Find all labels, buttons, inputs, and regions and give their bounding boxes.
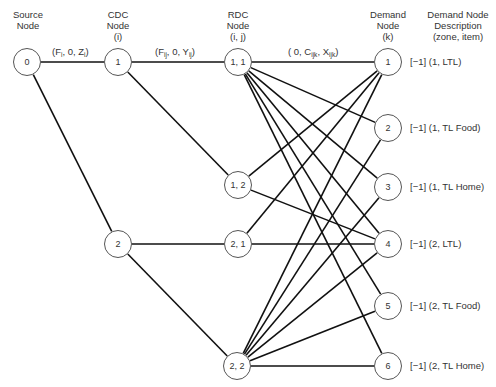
edge-label-source-cdc: (Fi, 0, Zi) [52, 46, 89, 58]
node-label: 4 [385, 239, 390, 249]
label-part: , X [317, 46, 329, 57]
header-line: RDC [216, 9, 260, 20]
edge-cdc-2-to-rdc-2-2 [128, 254, 227, 356]
rdc-node-1-1: 1, 1 [224, 48, 252, 76]
edge-cdc-1-to-rdc-1-2 [128, 72, 228, 175]
header-demand-node: Demand Node (k) [364, 9, 412, 42]
label-part: (F [52, 46, 61, 57]
demand-node-description: [−1] (2, TL Food) [410, 300, 481, 311]
source-node-0: 0 [13, 48, 41, 76]
label-part: ) [335, 46, 338, 57]
header-line: Demand Node [420, 9, 496, 20]
header-demand-description: Demand Node Description (zone, item) [420, 9, 496, 42]
node-label: 5 [385, 301, 390, 311]
edge-label-rdc-demand: ( 0, Cijk, Xijk) [288, 46, 338, 58]
demand-node-description: [−1] (1, TL Food) [410, 122, 481, 133]
label-part: (F [155, 46, 164, 57]
node-label: 1 [115, 57, 120, 67]
edge-rdc-2-2-to-demand-3 [246, 198, 379, 356]
label-part: , 0, Y [167, 46, 189, 57]
node-label: 3 [385, 182, 390, 192]
edge-rdc-2-2-to-demand-5 [250, 311, 375, 361]
node-label: 2, 2 [229, 361, 244, 371]
rdc-node-2-1: 2, 1 [224, 230, 252, 258]
edge-rdc-2-2-to-demand-2 [245, 140, 381, 354]
label-part: ) [192, 46, 195, 57]
header-line: (k) [364, 31, 412, 42]
label-part: ) [86, 46, 89, 57]
edge-label-cdc-rdc: (Fij, 0, Yij) [155, 46, 195, 58]
header-line: Node [364, 20, 412, 31]
header-line: Node [96, 20, 140, 31]
header-source-node: Source Node [4, 9, 52, 31]
demand-node-description: [−1] (2, LTL) [410, 238, 461, 249]
label-part: ( 0, C [288, 46, 311, 57]
demand-node-description: [−1] (2, TL Home) [410, 360, 484, 371]
header-line: (i) [96, 31, 140, 42]
node-label: 6 [385, 361, 390, 371]
demand-node-description: [−1] (1, LTL) [410, 56, 461, 67]
demand-node-3: 3 [374, 173, 402, 201]
header-cdc-node: CDC Node (i) [96, 9, 140, 42]
edge-rdc-1-1-to-demand-5 [245, 74, 380, 294]
header-line: (i, j) [216, 31, 260, 42]
rdc-node-2-2: 2, 2 [223, 352, 251, 380]
edge-source-0-to-cdc-2 [33, 75, 111, 232]
node-label: 1, 2 [230, 180, 245, 190]
header-line: CDC [96, 9, 140, 20]
header-line: Description [420, 20, 496, 31]
demand-node-2: 2 [374, 114, 402, 142]
header-line: (zone, item) [420, 31, 496, 42]
header-line: Node [216, 20, 260, 31]
header-line: Node [4, 20, 52, 31]
node-label: 1, 1 [230, 57, 245, 67]
demand-node-1: 1 [374, 48, 402, 76]
node-label: 0 [24, 57, 29, 67]
node-label: 2 [115, 239, 120, 249]
demand-node-4: 4 [374, 230, 402, 258]
cdc-node-2: 2 [104, 230, 132, 258]
demand-node-6: 6 [374, 352, 402, 380]
demand-node-5: 5 [374, 292, 402, 320]
demand-node-description: [−1] (1, TL Home) [410, 181, 484, 192]
header-line: Source [4, 9, 52, 20]
header-line: Demand [364, 9, 412, 20]
label-part: , 0, Z [62, 46, 84, 57]
node-label: 1 [385, 57, 390, 67]
rdc-node-1-2: 1, 2 [224, 171, 252, 199]
node-label: 2 [385, 123, 390, 133]
cdc-node-1: 1 [104, 48, 132, 76]
node-label: 2, 1 [230, 239, 245, 249]
header-rdc-node: RDC Node (i, j) [216, 9, 260, 42]
